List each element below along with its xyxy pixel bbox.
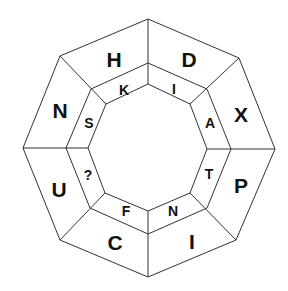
inner-letter-top-left: K [119,82,129,98]
outer-letter-left-top: N [52,99,67,122]
outer-letter-top-left: H [106,48,121,71]
outer-letter-bottom-left: C [107,231,122,254]
outer-letter-bottom-right: I [189,230,195,253]
outer-letter-right-top: X [234,103,248,126]
inner-letter-bottom-right: N [168,203,178,219]
inner-octagon [88,84,207,211]
outer-letter-left-bottom: U [51,178,66,201]
inner-letter-right-bottom: T [205,166,214,182]
outer-letter-top-right: D [181,48,196,71]
octagon-diagram: H D X P I C U N K I A T N F ? S [0,0,288,291]
outer-letter-right-bottom: P [234,174,248,197]
inner-letter-left-bottom-missing: ? [84,167,93,183]
inner-letter-bottom-left: F [122,203,131,219]
inner-letter-top-right: I [172,81,176,97]
inner-letter-right-top: A [205,115,215,131]
inner-letter-left-top: S [84,115,93,131]
